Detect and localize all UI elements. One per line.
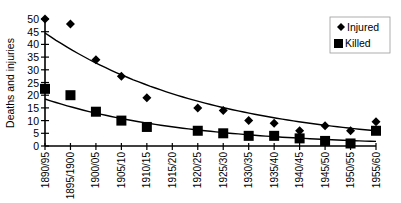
legend-label-killed: Killed (345, 37, 371, 49)
legend: Injured Killed (330, 17, 390, 53)
x-tick-label: 1930/35 (243, 152, 254, 189)
y-tick-label: 45 (27, 26, 39, 38)
x-tick-label: 1935/40 (269, 152, 280, 189)
x-axis: 1890/951895/19001900/051905/101910/15191… (40, 143, 382, 199)
y-tick-label: 10 (27, 115, 39, 127)
killed-point (218, 128, 228, 138)
y-tick-label: 30 (27, 64, 39, 76)
y-tick-label: 5 (33, 127, 39, 139)
killed-point (244, 131, 254, 141)
killed-point (116, 116, 126, 126)
injured-point (372, 117, 381, 126)
x-tick-label: 1895/1900 (65, 152, 76, 200)
injured-point (270, 119, 279, 128)
x-tick-label: 1890/95 (40, 152, 51, 189)
injured-point (66, 20, 75, 29)
x-tick-label: 1940/45 (294, 152, 305, 189)
killed-point (142, 122, 152, 132)
injured-point (41, 15, 50, 24)
killed-point (346, 138, 356, 148)
x-tick-label: 1925/30 (218, 152, 229, 189)
x-tick-label: 1945/50 (320, 152, 331, 189)
injured-point (193, 103, 202, 112)
y-tick-label: 50 (27, 13, 39, 25)
x-tick-label: 1950/55 (345, 152, 356, 189)
x-tick-label: 1920/25 (192, 152, 203, 189)
y-tick-label: 0 (33, 140, 39, 152)
killed-point (65, 90, 75, 100)
y-tick-label: 15 (27, 102, 39, 114)
legend-label-injured: Injured (347, 21, 379, 33)
killed-trendline (45, 99, 376, 141)
y-axis-label: Deaths and injuries (4, 38, 16, 128)
x-tick-label: 1915/20 (167, 152, 178, 189)
killed-point (320, 136, 330, 146)
killed-point (371, 126, 381, 136)
y-tick-label: 35 (27, 51, 39, 63)
killed-point (193, 126, 203, 136)
killed-point (269, 131, 279, 141)
y-tick-label: 40 (27, 38, 39, 50)
injured-point (91, 55, 100, 64)
killed-point (295, 133, 305, 143)
x-tick-label: 1900/05 (90, 152, 101, 189)
injured-point (321, 121, 330, 130)
chart-svg: 05101520253035404550 1890/951895/1900190… (0, 0, 401, 203)
injured-point (142, 93, 151, 102)
y-tick-label: 25 (27, 77, 39, 89)
x-tick-label: 1955/60 (371, 152, 382, 189)
killed-point (40, 84, 50, 94)
injured-point (244, 116, 253, 125)
chart: 05101520253035404550 1890/951895/1900190… (0, 0, 401, 203)
y-tick-label: 20 (27, 89, 39, 101)
square-marker-icon (334, 39, 343, 48)
killed-point (91, 107, 101, 117)
x-tick-label: 1910/15 (141, 152, 152, 189)
x-tick-label: 1905/10 (116, 152, 127, 189)
